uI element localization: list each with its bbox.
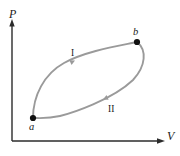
x-axis — [12, 138, 165, 143]
branch-label-II: II — [108, 104, 114, 114]
direction-arrowheads — [69, 58, 108, 102]
cycle-curves — [33, 42, 144, 118]
point-a-label: a — [29, 121, 34, 132]
point-b-label: b — [133, 26, 138, 37]
curve-path-I — [33, 42, 137, 118]
branch-label-I: I — [71, 48, 74, 58]
point-b-dot — [134, 39, 140, 45]
y-axis-label: P — [8, 7, 17, 21]
pv-cycle-figure: P V a b I II — [0, 0, 180, 156]
y-axis — [9, 19, 14, 141]
x-axis-arrowhead — [157, 138, 165, 143]
x-axis-label: V — [167, 129, 176, 143]
